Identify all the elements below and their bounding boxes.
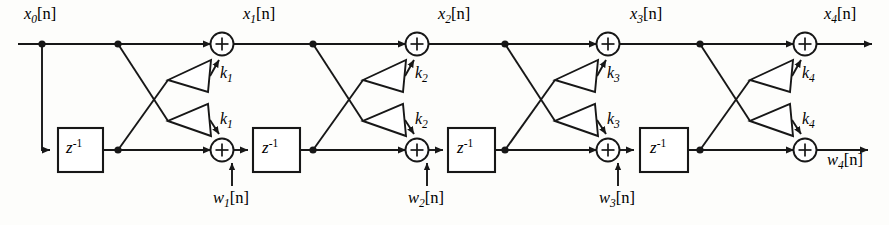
label-x1: x1[n] xyxy=(243,4,275,24)
label-w1: w1[n] xyxy=(213,188,249,208)
gain-triangle-k1-lower[interactable] xyxy=(168,104,211,136)
gain-triangles-upper xyxy=(168,60,801,92)
gain-triangle-k3-upper[interactable] xyxy=(555,60,598,92)
stage-1-cross-links xyxy=(114,40,168,153)
delay-label-3: z-1 xyxy=(650,138,666,158)
gain-triangle-k4-lower[interactable] xyxy=(750,104,793,136)
adder-bottom-4[interactable] xyxy=(794,139,817,162)
adder-bottom-2[interactable] xyxy=(406,139,429,162)
stage-3-cross-links xyxy=(501,40,555,153)
label-w4: w4[n] xyxy=(827,150,863,170)
input-branch-to-delay xyxy=(38,40,50,150)
gain-triangle-k1-upper[interactable] xyxy=(168,60,211,92)
label-k1-upper: k1 xyxy=(220,64,233,82)
lattice-filter-diagram: x0[n] x1[n] x2[n] x3[n] x4[n] w1[n] w2[n… xyxy=(0,0,889,225)
adder-bottom-1[interactable] xyxy=(211,139,234,162)
gain-triangle-k2-upper[interactable] xyxy=(363,60,406,92)
label-x0: x0[n] xyxy=(24,4,56,24)
adder-top-4[interactable] xyxy=(794,33,817,56)
gain-triangle-k4-upper[interactable] xyxy=(750,60,793,92)
label-x3: x3[n] xyxy=(630,4,662,24)
label-k4-upper: k4 xyxy=(802,64,815,82)
diagram-canvas xyxy=(0,0,889,225)
adder-top-3[interactable] xyxy=(597,33,620,56)
label-k3-lower: k3 xyxy=(607,110,620,128)
label-w3: w3[n] xyxy=(599,188,635,208)
stage-4-cross-links xyxy=(696,40,750,153)
adder-top-2[interactable] xyxy=(406,33,429,56)
delay-label-1: z-1 xyxy=(262,138,278,158)
label-x2: x2[n] xyxy=(438,4,470,24)
delay-label-2: z-1 xyxy=(457,138,473,158)
label-k4-lower: k4 xyxy=(802,110,815,128)
label-w2: w2[n] xyxy=(408,188,444,208)
gain-triangle-k2-lower[interactable] xyxy=(363,104,406,136)
label-k2-lower: k2 xyxy=(415,110,428,128)
adder-bottom-3[interactable] xyxy=(597,139,620,162)
label-x4: x4[n] xyxy=(824,4,856,24)
delay-label-0: z-1 xyxy=(66,138,82,158)
junction-dot-input xyxy=(38,40,45,47)
adder-top-1[interactable] xyxy=(211,33,234,56)
label-k2-upper: k2 xyxy=(415,64,428,82)
label-k3-upper: k3 xyxy=(607,64,620,82)
gain-triangle-k3-lower[interactable] xyxy=(555,104,598,136)
stage-2-cross-links xyxy=(309,40,363,153)
label-k1-lower: k1 xyxy=(220,110,233,128)
